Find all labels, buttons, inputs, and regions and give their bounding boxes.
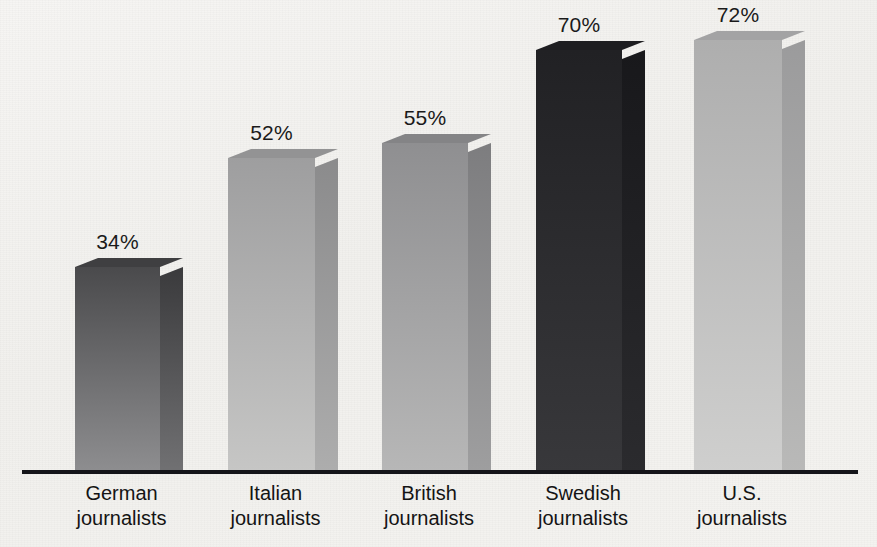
bar-top-face-us <box>694 31 805 40</box>
bar-side-face-us <box>782 40 805 472</box>
bar-top-face-italian <box>228 149 338 158</box>
bar-british[interactable]: 55% <box>382 134 468 472</box>
bar-us[interactable]: 72% <box>694 31 782 472</box>
bar-value-label-us: 72% <box>694 3 782 27</box>
category-label-british-line1: British <box>339 481 519 506</box>
bar-value-label-british: 55% <box>382 106 468 130</box>
category-label-german-line1: German <box>32 481 212 506</box>
category-label-us-line2: journalists <box>652 506 832 531</box>
category-label-swedish-line1: Swedish <box>493 481 673 506</box>
category-label-german: German journalists <box>32 481 212 531</box>
category-label-british-line2: journalists <box>339 506 519 531</box>
bar-side-face-italian <box>315 158 338 472</box>
bar-top-face-swedish <box>536 41 645 50</box>
category-label-us-line1: U.S. <box>652 481 832 506</box>
category-label-german-line2: journalists <box>32 506 212 531</box>
bar-front-face-swedish <box>536 50 622 472</box>
bar-front-face-us <box>694 40 782 472</box>
bar-german[interactable]: 34% <box>75 258 160 472</box>
bar-top-face-german <box>75 258 183 267</box>
bar-value-label-italian: 52% <box>228 121 315 145</box>
bar-swedish[interactable]: 70% <box>536 41 622 472</box>
bar-chart: 34% 52% 55% 70% 72% German journalists I… <box>0 0 877 547</box>
bar-front-face-italian <box>228 158 315 472</box>
bar-front-face-british <box>382 143 468 472</box>
category-label-us: U.S. journalists <box>652 481 832 531</box>
bar-side-face-german <box>160 267 183 472</box>
bar-italian[interactable]: 52% <box>228 149 315 472</box>
bar-value-label-swedish: 70% <box>536 13 622 37</box>
bar-front-face-german <box>75 267 160 472</box>
category-label-swedish-line2: journalists <box>493 506 673 531</box>
bar-value-label-german: 34% <box>75 230 160 254</box>
category-label-british: British journalists <box>339 481 519 531</box>
bar-side-face-british <box>468 143 491 472</box>
category-label-swedish: Swedish journalists <box>493 481 673 531</box>
bar-side-face-swedish <box>622 50 645 472</box>
x-axis-line <box>22 470 858 474</box>
bar-top-face-british <box>382 134 491 143</box>
